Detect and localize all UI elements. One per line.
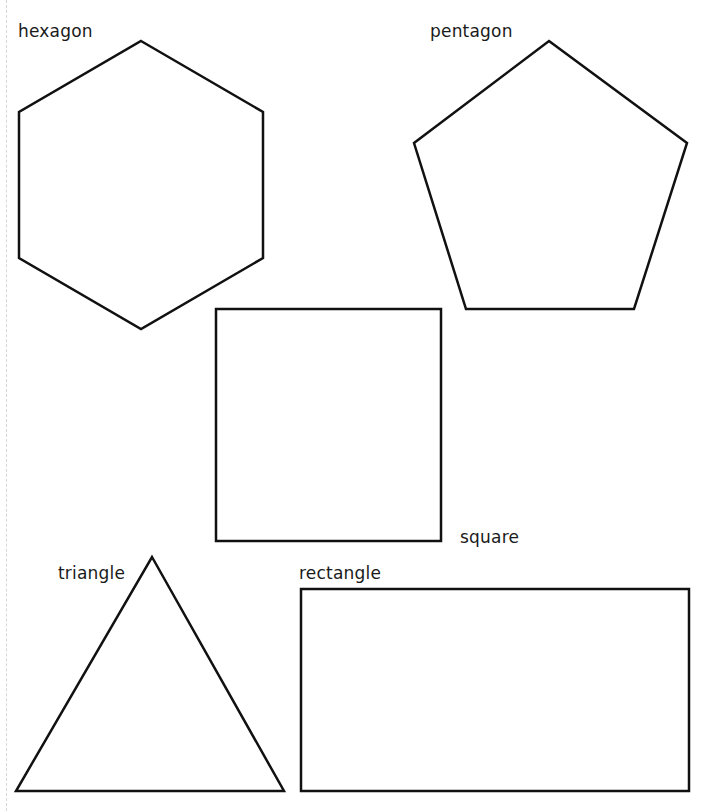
triangle-label: triangle [58,563,125,583]
rectangle-label: rectangle [299,563,381,583]
rectangle-shape [301,589,689,791]
pentagon-label: pentagon [430,21,513,41]
shapes-canvas [0,0,707,811]
pentagon-shape [414,41,687,309]
square-shape [216,309,441,541]
hexagon-shape [19,41,263,329]
hexagon-label: hexagon [18,21,93,41]
triangle-shape [16,557,284,791]
square-label: square [460,527,519,547]
